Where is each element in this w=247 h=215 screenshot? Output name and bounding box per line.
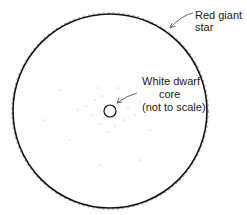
white-dwarf-label-line1: White dwarf bbox=[142, 75, 200, 87]
red-giant-arrow bbox=[170, 13, 193, 28]
white-dwarf-label-line3: (not to scale) bbox=[142, 101, 206, 113]
interior-dots bbox=[44, 87, 150, 165]
red-giant-label-line1: Red giant bbox=[195, 9, 242, 21]
white-dwarf-circle bbox=[104, 105, 116, 117]
red-giant-label-line2: star bbox=[195, 21, 213, 33]
white-dwarf-label-line2: core bbox=[159, 88, 180, 100]
